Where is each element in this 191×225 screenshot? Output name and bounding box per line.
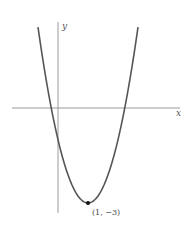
parabola-curve	[38, 27, 138, 203]
vertex-label: (1, −3)	[92, 208, 120, 217]
y-axis-label: y	[61, 21, 68, 31]
x-axis-label: x	[176, 108, 181, 118]
parabola-figure: y x (1, −3)	[0, 0, 191, 225]
vertex-point	[86, 201, 90, 205]
chart-canvas: y x (1, −3)	[0, 0, 191, 225]
